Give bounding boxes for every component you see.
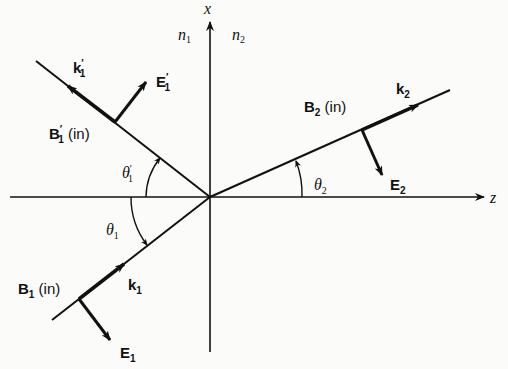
E2-arrow: [362, 130, 382, 175]
k2-label: k2: [396, 80, 410, 100]
theta2-label: θ2: [314, 176, 327, 196]
E1-arrow: [79, 299, 110, 340]
incident-ray: [52, 197, 210, 320]
z-axis-label: z: [489, 189, 497, 206]
E2-label: E2: [390, 176, 406, 196]
n2-label: n2: [232, 26, 245, 45]
k1-label: k1: [128, 276, 142, 296]
B1-label: B1 (in): [18, 280, 60, 300]
k1-arrow: [79, 264, 124, 299]
E1-prime-arrow: [115, 82, 146, 122]
theta1-prime-label: θ′1: [122, 163, 133, 184]
x-axis-label: x: [203, 0, 211, 17]
E1-prime-label: E′1: [156, 72, 170, 93]
theta1-arc: [131, 197, 147, 245]
k1-prime-label: k′1: [73, 58, 86, 79]
B2-label: B2 (in): [304, 98, 346, 118]
reflection-refraction-diagram: x z n1 n2 k′1 E′1 B′1 (in) θ′1 k2 B2 (in…: [0, 0, 508, 369]
E1-label: E1: [120, 344, 136, 364]
k2-arrow: [362, 105, 418, 130]
n1-label: n1: [178, 26, 191, 45]
theta1-label: θ1: [106, 221, 119, 241]
k1-prime-arrow: [68, 86, 115, 122]
B1-prime-label: B′1 (in): [49, 124, 90, 145]
theta2-arc: [296, 161, 302, 197]
theta1-prime-arc: [146, 158, 160, 197]
